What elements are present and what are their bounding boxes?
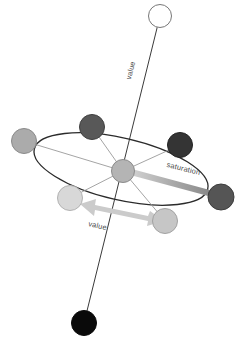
node-hue-lower-right[interactable] <box>153 209 178 234</box>
node-hue-upper-right[interactable] <box>168 133 193 158</box>
node-hue-left[interactable] <box>12 129 37 154</box>
value-axis-label: value <box>124 60 137 80</box>
spoke-to-hue-left <box>24 141 123 171</box>
node-hue-lower-left[interactable] <box>58 186 83 211</box>
node-hue-top[interactable] <box>80 115 105 140</box>
saturation-label: saturation <box>166 160 202 177</box>
node-black-bottom[interactable] <box>72 311 97 336</box>
node-white-top[interactable] <box>149 5 172 28</box>
node-center[interactable] <box>112 160 135 183</box>
diagram-canvas: value saturation value <box>0 0 236 342</box>
node-hue-right[interactable] <box>208 184 234 210</box>
value-spread-label: value <box>87 219 107 232</box>
color-space-diagram: value saturation value <box>0 0 236 342</box>
